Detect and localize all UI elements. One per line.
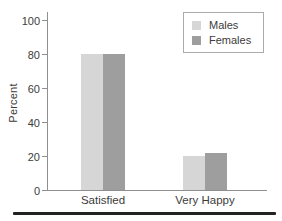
y-tick-label-60: 60 — [10, 83, 40, 94]
y-tick-mark-100 — [42, 20, 47, 21]
bar-chart-figure: Percent 020406080100 SatisfiedVery Happy… — [0, 0, 282, 221]
legend-label-females: Females — [209, 35, 251, 46]
females-swatch — [192, 36, 201, 45]
y-tick-mark-0 — [42, 190, 47, 191]
legend-item-females: Females — [192, 35, 263, 46]
y-tick-mark-80 — [42, 54, 47, 55]
bottom-rule — [13, 212, 276, 215]
y-tick-mark-60 — [42, 88, 47, 89]
y-tick-mark-40 — [42, 122, 47, 123]
y-tick-label-20: 20 — [10, 151, 40, 162]
x-category-label-satisfied: Satisfied — [81, 194, 125, 206]
bar-males-very-happy — [183, 156, 205, 190]
legend-label-males: Males — [209, 20, 238, 31]
males-swatch — [192, 21, 201, 30]
bar-males-satisfied — [81, 54, 103, 190]
y-tick-mark-20 — [42, 156, 47, 157]
y-tick-label-40: 40 — [10, 117, 40, 128]
x-category-label-very-happy: Very Happy — [175, 194, 234, 206]
bar-females-satisfied — [103, 54, 125, 190]
legend: Males Females — [183, 12, 264, 53]
y-axis-line — [47, 12, 48, 191]
y-tick-label-100: 100 — [10, 15, 40, 26]
bar-females-very-happy — [205, 153, 227, 190]
legend-item-males: Males — [192, 20, 263, 31]
y-tick-label-0: 0 — [10, 185, 40, 196]
x-axis-line — [47, 190, 267, 191]
y-tick-label-80: 80 — [10, 49, 40, 60]
